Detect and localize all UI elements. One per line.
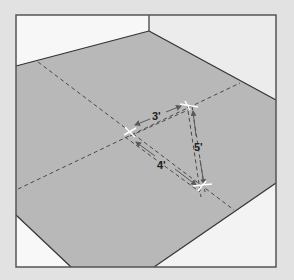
label-3ft: 3' bbox=[152, 110, 161, 122]
label-5ft: 5' bbox=[194, 141, 203, 153]
label-4ft: 4' bbox=[157, 159, 166, 171]
diagram-canvas: 3' 4' 5' bbox=[0, 0, 294, 280]
